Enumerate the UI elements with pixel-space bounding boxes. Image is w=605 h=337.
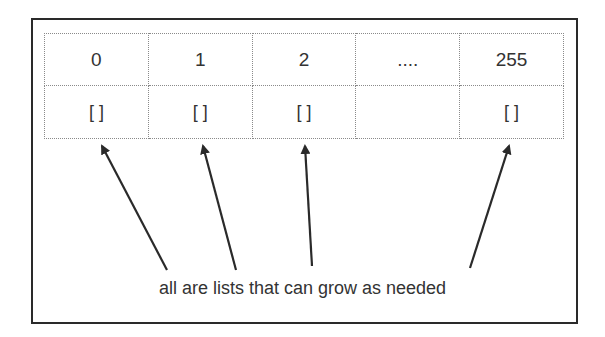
- arrow-icon: [203, 146, 236, 270]
- caption-text: all are lists that can grow as needed: [0, 278, 605, 299]
- arrow-icon: [305, 146, 312, 266]
- arrow-icon: [102, 146, 167, 270]
- arrow-icon: [470, 146, 509, 268]
